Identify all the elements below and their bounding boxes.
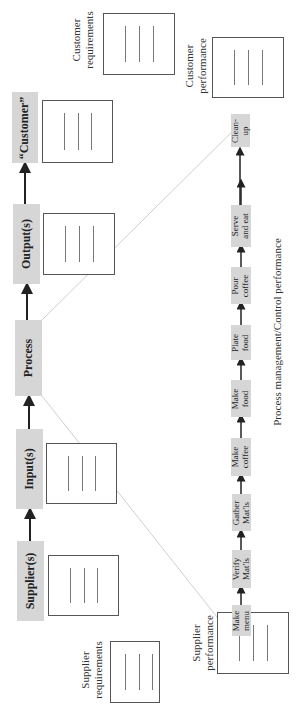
clean-up-arrow-layer	[0, 0, 305, 709]
process-management-label: Process management/Control performance	[271, 238, 284, 426]
